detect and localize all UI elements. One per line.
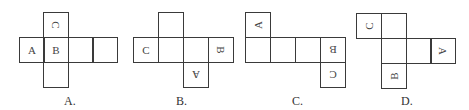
net-face: C xyxy=(320,62,346,88)
net-face xyxy=(381,38,407,64)
net-face xyxy=(406,38,432,64)
face-letter: B xyxy=(44,38,68,62)
net-face xyxy=(270,37,296,63)
face-letter: C xyxy=(357,14,381,38)
net-face xyxy=(43,62,69,88)
face-letter: A xyxy=(431,39,455,63)
face-letter: C xyxy=(44,13,68,37)
net-face xyxy=(68,37,94,63)
net-face xyxy=(245,37,271,63)
face-letter: B xyxy=(382,64,406,88)
net-face: C xyxy=(356,13,382,39)
option-label: A. xyxy=(64,94,76,109)
face-letter: C xyxy=(321,63,345,87)
net-face: B xyxy=(43,37,69,63)
net-face xyxy=(92,37,118,63)
net-face: A xyxy=(245,12,271,38)
net-face: A xyxy=(19,37,45,63)
face-letter: A xyxy=(20,38,44,62)
face-letter: B xyxy=(209,38,233,62)
net-face xyxy=(295,37,321,63)
option-label: C. xyxy=(292,94,303,109)
net-face xyxy=(183,37,209,63)
option-label: B. xyxy=(176,94,187,109)
net-face: B xyxy=(381,63,407,89)
option-label: D. xyxy=(401,94,413,109)
net-face xyxy=(381,13,407,39)
net-face: A xyxy=(183,62,209,88)
net-face: B xyxy=(208,37,234,63)
net-face xyxy=(158,37,184,63)
net-face: C xyxy=(133,37,159,63)
net-face: B xyxy=(320,37,346,63)
net-face: A xyxy=(430,38,456,64)
face-letter: A xyxy=(246,13,270,37)
face-letter: C xyxy=(134,38,158,62)
net-face xyxy=(158,12,184,38)
face-letter: B xyxy=(321,38,345,62)
net-face: C xyxy=(43,12,69,38)
face-letter: A xyxy=(184,63,208,87)
